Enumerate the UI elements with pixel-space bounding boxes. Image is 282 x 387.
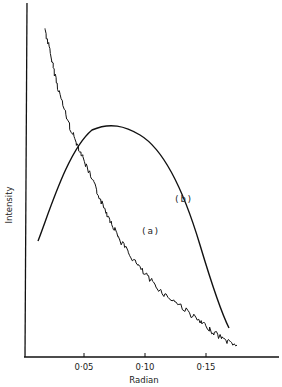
intensity-vs-radian-chart: 0·05 0·10 0·15 Radian Intensity (a) (b): [0, 0, 282, 387]
curve-a: [45, 28, 237, 346]
y-axis-label: Intensity: [4, 187, 14, 224]
curve-b-label: (b): [174, 194, 193, 204]
x-tick-label-0-05: 0·05: [75, 362, 94, 372]
x-axis-label: Radian: [129, 375, 158, 385]
curve-b: [38, 126, 229, 328]
curve-a-label: (a): [141, 226, 160, 236]
x-tick-label-0-10: 0·10: [136, 362, 155, 372]
y-axis: [25, 3, 27, 357]
x-tick-label-0-15: 0·15: [197, 362, 216, 372]
